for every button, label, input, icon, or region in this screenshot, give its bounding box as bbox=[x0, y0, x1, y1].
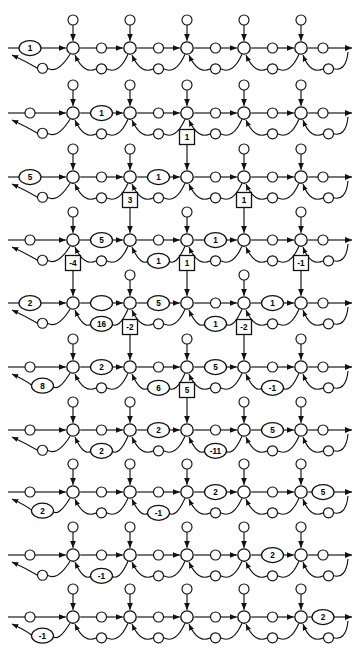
top-place-2[interactable] bbox=[125, 15, 135, 25]
segment-place-3[interactable] bbox=[211, 612, 221, 622]
top-place-2[interactable] bbox=[125, 397, 135, 407]
feedback-place-5[interactable] bbox=[324, 383, 334, 393]
feedback-place-0[interactable] bbox=[38, 128, 48, 138]
feedback-place-2[interactable] bbox=[154, 319, 164, 329]
transition-node-2[interactable] bbox=[124, 297, 136, 309]
transition-node-4[interactable] bbox=[238, 234, 250, 246]
transition-node-3[interactable] bbox=[181, 107, 193, 119]
top-place-3[interactable] bbox=[182, 334, 192, 344]
segment-place-3[interactable] bbox=[211, 550, 221, 560]
transition-node-1[interactable] bbox=[67, 297, 79, 309]
feedback-place-0[interactable] bbox=[38, 445, 48, 455]
top-place-4[interactable] bbox=[239, 397, 249, 407]
feedback-place-4[interactable] bbox=[268, 256, 278, 266]
feedback-place-5[interactable] bbox=[324, 64, 334, 74]
entry-place[interactable] bbox=[25, 425, 35, 435]
segment-place-2[interactable] bbox=[154, 235, 164, 245]
transition-node-1[interactable] bbox=[67, 107, 79, 119]
feedback-place-1[interactable] bbox=[97, 64, 107, 74]
feedback-place-2[interactable] bbox=[154, 64, 164, 74]
segment-place-1[interactable] bbox=[97, 425, 107, 435]
feedback-place-3[interactable] bbox=[211, 64, 221, 74]
feedback-place-0[interactable] bbox=[38, 63, 48, 73]
top-place-1[interactable] bbox=[68, 15, 78, 25]
top-place-2[interactable] bbox=[125, 80, 135, 90]
top-place-2[interactable] bbox=[125, 144, 135, 154]
segment-place-2[interactable] bbox=[154, 108, 164, 118]
entry-place[interactable] bbox=[25, 487, 35, 497]
entry-place[interactable] bbox=[25, 550, 35, 560]
segment-place-2[interactable] bbox=[154, 43, 164, 53]
transition-node-2[interactable] bbox=[124, 549, 136, 561]
transition-node-3[interactable] bbox=[181, 297, 193, 309]
exit-place[interactable] bbox=[318, 298, 328, 308]
feedback-place-4[interactable] bbox=[268, 508, 278, 518]
transition-node-4[interactable] bbox=[238, 171, 250, 183]
segment-place-1[interactable] bbox=[97, 612, 107, 622]
segment-place-3[interactable] bbox=[211, 108, 221, 118]
top-place-4[interactable] bbox=[239, 584, 249, 594]
transition-node-3[interactable] bbox=[181, 361, 193, 373]
transition-node-1[interactable] bbox=[67, 42, 79, 54]
feedback-place-5[interactable] bbox=[324, 446, 334, 456]
top-place-3[interactable] bbox=[182, 15, 192, 25]
top-place-1[interactable] bbox=[68, 334, 78, 344]
segment-place-4[interactable] bbox=[268, 487, 278, 497]
transition-node-1[interactable] bbox=[67, 486, 79, 498]
feedback-place-2[interactable] bbox=[154, 633, 164, 643]
top-place-5[interactable] bbox=[296, 584, 306, 594]
feedback-place-3[interactable] bbox=[211, 193, 221, 203]
transition-node-1[interactable] bbox=[67, 171, 79, 183]
top-place-4[interactable] bbox=[239, 522, 249, 532]
feedback-place-5[interactable] bbox=[324, 193, 334, 203]
top-place-5[interactable] bbox=[296, 144, 306, 154]
feedback-place-4[interactable] bbox=[268, 319, 278, 329]
exit-place[interactable] bbox=[318, 172, 328, 182]
top-place-3[interactable] bbox=[182, 80, 192, 90]
transition-node-4[interactable] bbox=[238, 486, 250, 498]
top-place-1[interactable] bbox=[68, 207, 78, 217]
transition-node-5[interactable] bbox=[295, 234, 307, 246]
top-place-3[interactable] bbox=[182, 459, 192, 469]
segment-place-3[interactable] bbox=[211, 43, 221, 53]
feedback-place-4[interactable] bbox=[268, 633, 278, 643]
feedback-place-2[interactable] bbox=[154, 446, 164, 456]
transition-node-5[interactable] bbox=[295, 107, 307, 119]
top-place-2[interactable] bbox=[125, 522, 135, 532]
top-place-5[interactable] bbox=[296, 207, 306, 217]
feedback-place-1[interactable] bbox=[97, 193, 107, 203]
exit-place[interactable] bbox=[318, 550, 328, 560]
transition-node-2[interactable] bbox=[124, 107, 136, 119]
transition-node-3[interactable] bbox=[181, 171, 193, 183]
top-place-5[interactable] bbox=[296, 522, 306, 532]
feedback-place-5[interactable] bbox=[324, 256, 334, 266]
transition-node-2[interactable] bbox=[124, 171, 136, 183]
segment-place-4[interactable] bbox=[268, 108, 278, 118]
transition-node-1[interactable] bbox=[67, 234, 79, 246]
top-place-5[interactable] bbox=[296, 80, 306, 90]
feedback-place-1[interactable] bbox=[97, 383, 107, 393]
entry-place[interactable] bbox=[25, 108, 35, 118]
entry-place[interactable] bbox=[25, 612, 35, 622]
top-place-4[interactable] bbox=[239, 270, 249, 280]
feedback-place-1[interactable] bbox=[97, 633, 107, 643]
transition-node-2[interactable] bbox=[124, 234, 136, 246]
transition-node-4[interactable] bbox=[238, 611, 250, 623]
feedback-place-2[interactable] bbox=[154, 129, 164, 139]
transition-node-5[interactable] bbox=[295, 171, 307, 183]
transition-node-5[interactable] bbox=[295, 424, 307, 436]
segment-place-2[interactable] bbox=[154, 487, 164, 497]
exit-place[interactable] bbox=[318, 108, 328, 118]
transition-node-1[interactable] bbox=[67, 611, 79, 623]
top-place-3[interactable] bbox=[182, 207, 192, 217]
exit-place[interactable] bbox=[318, 235, 328, 245]
transition-node-4[interactable] bbox=[238, 42, 250, 54]
segment-place-3[interactable] bbox=[211, 425, 221, 435]
transition-node-1[interactable] bbox=[67, 361, 79, 373]
top-place-1[interactable] bbox=[68, 80, 78, 90]
feedback-place-2[interactable] bbox=[154, 571, 164, 581]
transition-node-2[interactable] bbox=[124, 424, 136, 436]
transition-node-5[interactable] bbox=[295, 486, 307, 498]
top-place-4[interactable] bbox=[239, 80, 249, 90]
feedback-place-3[interactable] bbox=[211, 571, 221, 581]
